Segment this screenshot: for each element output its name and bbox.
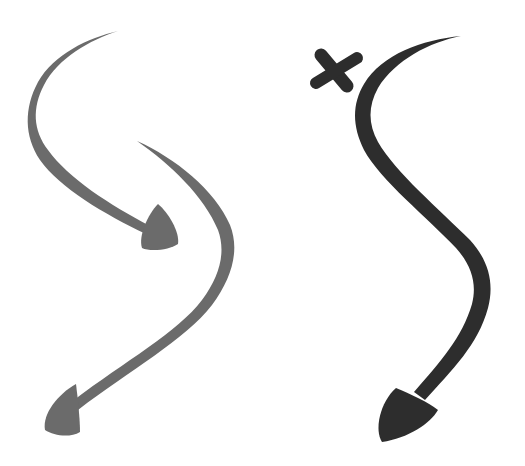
dark-arrow-shaft bbox=[355, 36, 491, 400]
dark-arrow bbox=[355, 36, 491, 442]
dark-arrow-head bbox=[378, 388, 438, 442]
gray-arrow-bottom-shaft bbox=[74, 141, 234, 410]
gray-arrow-top-head bbox=[141, 204, 178, 250]
x-mark-icon bbox=[316, 55, 357, 86]
gray-arrow-top-shaft bbox=[28, 31, 150, 234]
arrows-illustration bbox=[0, 0, 525, 466]
gray-arrow-top bbox=[28, 31, 178, 250]
gray-arrow-bottom-head bbox=[45, 384, 80, 436]
